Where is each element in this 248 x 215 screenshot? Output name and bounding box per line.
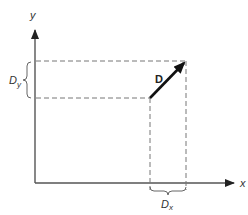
x-axis-label: x (239, 177, 246, 189)
vector-components-diagram: y x D Dy Dx (0, 0, 248, 215)
dy-label: Dy (9, 74, 22, 89)
y-axis-label: y (29, 9, 37, 21)
dy-brace (23, 62, 31, 98)
dx-brace (150, 187, 186, 195)
dx-label: Dx (161, 198, 174, 212)
vector-d-label: D (155, 73, 163, 85)
